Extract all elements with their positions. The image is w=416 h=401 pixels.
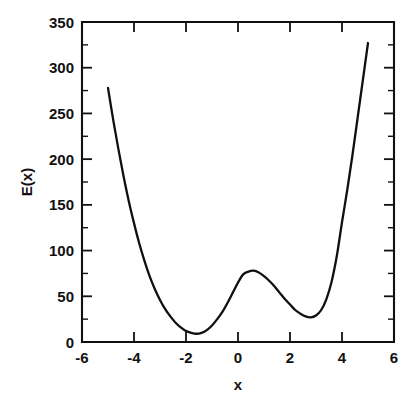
x-tick-label-0: 0 bbox=[234, 349, 242, 366]
x-tick-label-6: 6 bbox=[390, 349, 398, 366]
x-tick-label-neg6: -6 bbox=[75, 349, 88, 366]
x-tick-label-4: 4 bbox=[338, 349, 347, 366]
y-axis-title: E(x) bbox=[18, 168, 35, 196]
energy-curve-plot: 0 50 100 150 200 250 300 350 -6 -4 -2 0 … bbox=[0, 0, 416, 401]
x-tick-label-neg4: -4 bbox=[127, 349, 141, 366]
x-tick-label-2: 2 bbox=[286, 349, 294, 366]
y-tick-label-300: 300 bbox=[49, 59, 74, 76]
y-tick-label-350: 350 bbox=[49, 14, 74, 31]
x-tick-label-neg2: -2 bbox=[179, 349, 192, 366]
y-tick-label-100: 100 bbox=[49, 242, 74, 259]
y-tick-label-50: 50 bbox=[57, 288, 74, 305]
x-axis-title: x bbox=[234, 376, 243, 393]
chart-figure: 0 50 100 150 200 250 300 350 -6 -4 -2 0 … bbox=[0, 0, 416, 401]
y-tick-label-250: 250 bbox=[49, 105, 74, 122]
y-tick-label-150: 150 bbox=[49, 196, 74, 213]
y-tick-label-0: 0 bbox=[66, 334, 74, 351]
y-tick-label-200: 200 bbox=[49, 151, 74, 168]
